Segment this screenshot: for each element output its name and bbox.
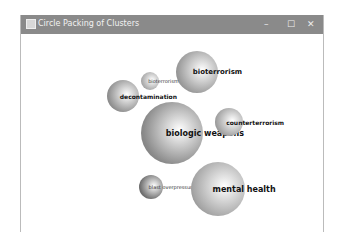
minimize-button[interactable]: – (264, 18, 269, 30)
cluster-label: mental health (213, 185, 276, 194)
circle-packing-canvas: bioterrorismbioterrorismdecontaminationb… (21, 34, 323, 232)
app-window: Circle Packing of Clusters – ☐ ✕ bioterr… (20, 15, 324, 232)
java-app-icon (26, 19, 36, 29)
close-button[interactable]: ✕ (307, 18, 315, 30)
cluster-label: counterterrorism (226, 119, 284, 126)
cluster-label: decontamination (120, 93, 177, 100)
cluster-label: bioterrorism (193, 68, 242, 76)
maximize-button[interactable]: ☐ (287, 18, 295, 30)
cluster-label: bioterrorism (148, 78, 179, 84)
window-title: Circle Packing of Clusters (38, 19, 139, 28)
cluster-label: blast overpressure (149, 184, 196, 190)
title-bar[interactable]: Circle Packing of Clusters – ☐ ✕ (21, 15, 323, 34)
